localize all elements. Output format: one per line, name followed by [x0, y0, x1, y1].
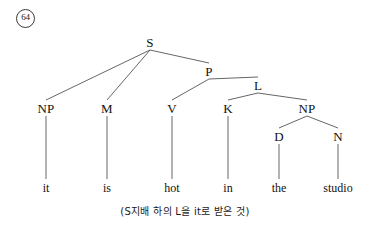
tree-leaf-it: it [43, 182, 50, 194]
tree-node-np2: NP [298, 102, 315, 115]
tree-node-k: K [223, 102, 233, 115]
tree-node-l: L [254, 79, 262, 92]
tree-node-p: P [205, 65, 212, 78]
tree-node-m: M [101, 102, 113, 115]
tree-node-d: D [274, 130, 284, 143]
tree-edge-l-k [228, 93, 258, 100]
tree-leaf-studio: studio [323, 182, 352, 194]
tree-edge-p-v [172, 79, 209, 100]
tree-node-s: S [146, 36, 153, 49]
tree-leaf-is: is [103, 182, 111, 194]
figure-page: 64 SPLNPMVKNPDN itishotinthestudio (S지배 … [0, 0, 370, 228]
leaf-stem-group [46, 116, 338, 179]
tree-edge-s-m [107, 50, 150, 100]
tree-leaf-in: in [223, 182, 232, 194]
tree-edge-p-l [209, 77, 258, 79]
tree-edge-s-np1 [46, 50, 150, 100]
tree-leaf-the: the [272, 182, 287, 194]
tree-leaf-hot: hot [164, 182, 179, 194]
tree-edge-np2-d [279, 116, 307, 128]
tree-node-n: N [333, 130, 343, 143]
tree-node-v: V [167, 102, 177, 115]
tree-node-np1: NP [37, 102, 54, 115]
tree-edge-np2-n [307, 116, 338, 128]
figure-caption: (S지배 하의 L을 it로 받은 것) [0, 203, 370, 218]
tree-edge-group [46, 50, 338, 128]
tree-edge-l-np2 [258, 93, 307, 100]
tree-edge-s-p [150, 50, 209, 63]
